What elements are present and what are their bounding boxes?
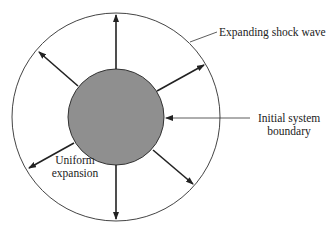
uniform-expansion-label: Uniform expansion (50, 154, 100, 180)
initial-boundary-label: Initial system boundary (258, 112, 320, 138)
arrow-right-down (153, 150, 193, 184)
initial-boundary-line1: Initial system (258, 112, 320, 125)
initial-boundary-line2: boundary (258, 125, 320, 138)
initial-system-circle (68, 69, 164, 165)
arrow-up-right (157, 65, 204, 91)
shock-wave-leader (190, 32, 217, 42)
expansion-line1: Uniform (50, 154, 100, 167)
shock-wave-label: Expanding shock wave (219, 26, 326, 39)
arrow-up-left (39, 52, 78, 86)
expansion-line2: expansion (50, 167, 100, 180)
